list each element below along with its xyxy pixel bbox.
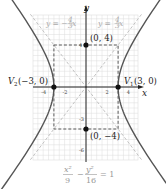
x-tick-label: -4: [41, 89, 46, 95]
hyperbola-equation: x² 9 − y² 16 = 1: [63, 165, 114, 185]
point-co-vertex-top: [83, 42, 88, 47]
point-V1: [116, 84, 121, 89]
x-tick-label: 4: [127, 89, 130, 95]
y-tick-label: 4: [79, 42, 82, 48]
x-axis-label: x: [142, 88, 147, 98]
x-tick-label: -2: [63, 89, 68, 95]
svg-text:(−3, 0): (−3, 0): [18, 76, 48, 86]
point-co-vertex-bottom: [83, 126, 88, 131]
svg-text:= 1: = 1: [100, 170, 114, 179]
point-label-v1: V 1 (3, 0): [124, 76, 157, 87]
y-tick-label: -3: [79, 116, 84, 122]
point-label-v2: V 2 (−3, 0): [8, 76, 48, 87]
x-tick-label: 2: [105, 89, 108, 95]
svg-text:−: −: [77, 170, 84, 179]
svg-text:2: 2: [14, 81, 18, 87]
svg-text:x²: x²: [64, 165, 72, 174]
point-label-top: (0, 4): [90, 33, 113, 43]
svg-text:y =: y =: [97, 19, 111, 28]
svg-text:y²: y²: [85, 165, 94, 174]
svg-text:9: 9: [65, 176, 70, 185]
point-label-bottom: (0, −4): [90, 131, 120, 141]
svg-text:(3, 0): (3, 0): [134, 76, 157, 86]
svg-text:1: 1: [130, 81, 134, 87]
hyperbola-chart: -4-2244-3-6 y x y = − 4 3 x y = 4 3 x (0…: [0, 0, 166, 189]
y-axis-label: y: [83, 3, 90, 13]
svg-text:16: 16: [86, 176, 96, 185]
y-tick-label: -6: [79, 147, 84, 153]
svg-text:y = −: y = −: [45, 19, 68, 28]
point-V2: [51, 84, 56, 89]
